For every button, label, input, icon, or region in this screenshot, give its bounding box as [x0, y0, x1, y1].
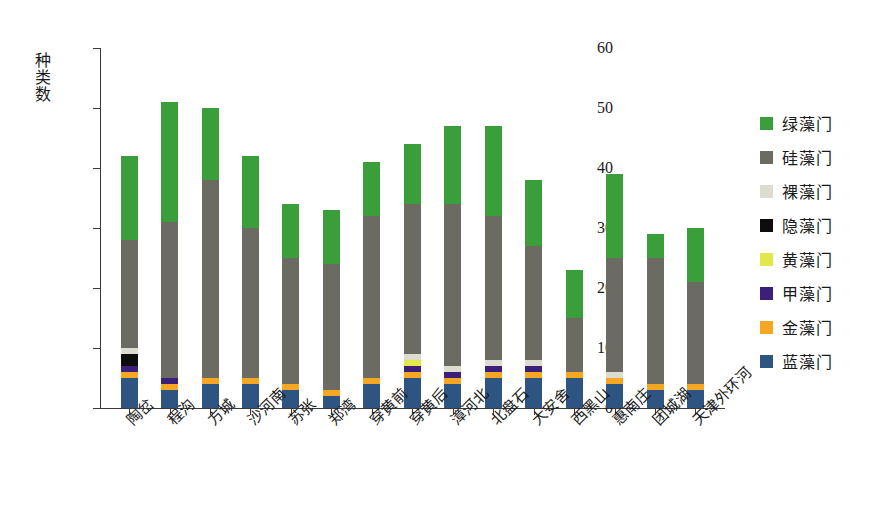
legend-label: 绿藻门 — [782, 111, 833, 135]
legend-swatch-icon — [760, 287, 773, 300]
bar-天津外环河[interactable] — [687, 228, 704, 408]
bar-segment-绿藻门 — [161, 102, 178, 222]
legend-label: 蓝藻门 — [782, 349, 833, 373]
legend-swatch-icon — [760, 253, 773, 266]
legend-label: 金藻门 — [782, 315, 833, 339]
bar-segment-硅藻门 — [282, 258, 299, 384]
bar-segment-绿藻门 — [525, 180, 542, 246]
bar-segment-硅藻门 — [202, 180, 219, 378]
bar-漳河北[interactable] — [444, 126, 461, 408]
y-tick-label: 50 — [573, 100, 613, 116]
bar-segment-硅藻门 — [566, 318, 583, 372]
bar-北盘石[interactable] — [485, 126, 502, 408]
bar-segment-硅藻门 — [161, 222, 178, 378]
bar-segment-绿藻门 — [282, 204, 299, 258]
bar-segment-硅藻门 — [363, 216, 380, 378]
stacked-bar-chart: 种类数 0102030405060 陶岔程沟方城沙河南苏张郑湾穿黄前穿黄后漳河北… — [0, 0, 877, 524]
legend-swatch-icon — [760, 355, 773, 368]
y-tick — [93, 228, 100, 229]
legend-item-裸藻门[interactable]: 裸藻门 — [760, 174, 833, 208]
bar-苏张[interactable] — [282, 204, 299, 408]
legend-label: 隐藻门 — [782, 213, 833, 237]
y-tick — [93, 348, 100, 349]
y-tick — [93, 48, 100, 49]
bar-segment-硅藻门 — [242, 228, 259, 378]
bar-segment-硅藻门 — [687, 282, 704, 384]
plot-area: 0102030405060 — [100, 48, 725, 408]
bar-segment-绿藻门 — [242, 156, 259, 228]
bar-方城[interactable] — [202, 108, 219, 408]
legend-item-隐藻门[interactable]: 隐藻门 — [760, 208, 833, 242]
bar-segment-绿藻门 — [485, 126, 502, 216]
y-tick — [93, 108, 100, 109]
bar-segment-绿藻门 — [566, 270, 583, 318]
legend-item-蓝藻门[interactable]: 蓝藻门 — [760, 344, 833, 378]
bar-segment-绿藻门 — [323, 210, 340, 264]
bar-segment-绿藻门 — [647, 234, 664, 258]
legend-item-绿藻门[interactable]: 绿藻门 — [760, 106, 833, 140]
bar-segment-蓝藻门 — [363, 384, 380, 408]
bar-segment-蓝藻门 — [202, 384, 219, 408]
bar-segment-绿藻门 — [404, 144, 421, 204]
legend-label: 硅藻门 — [782, 145, 833, 169]
bar-segment-硅藻门 — [121, 240, 138, 348]
bar-segment-隐藻门 — [121, 354, 138, 366]
bar-惠南庄[interactable] — [606, 174, 623, 408]
bar-穿黄后[interactable] — [404, 144, 421, 408]
legend-label: 甲藻门 — [782, 281, 833, 305]
legend-item-甲藻门[interactable]: 甲藻门 — [760, 276, 833, 310]
bar-segment-硅藻门 — [485, 216, 502, 360]
bar-segment-绿藻门 — [606, 174, 623, 258]
y-tick — [93, 408, 100, 409]
legend-swatch-icon — [760, 219, 773, 232]
bar-segment-绿藻门 — [363, 162, 380, 216]
legend-item-金藻门[interactable]: 金藻门 — [760, 310, 833, 344]
y-tick — [93, 168, 100, 169]
bar-大安舍[interactable] — [525, 180, 542, 408]
bar-程沟[interactable] — [161, 102, 178, 408]
y-tick-label: 60 — [573, 40, 613, 56]
bar-西黑山[interactable] — [566, 270, 583, 408]
bar-陶岔[interactable] — [121, 156, 138, 408]
bar-segment-硅藻门 — [323, 264, 340, 390]
legend-swatch-icon — [760, 151, 773, 164]
legend-item-黄藻门[interactable]: 黄藻门 — [760, 242, 833, 276]
bar-segment-硅藻门 — [525, 246, 542, 360]
bar-segment-硅藻门 — [647, 258, 664, 384]
bar-segment-绿藻门 — [202, 108, 219, 180]
bar-郑湾[interactable] — [323, 210, 340, 408]
bar-segment-绿藻门 — [444, 126, 461, 204]
bar-segment-硅藻门 — [606, 258, 623, 372]
y-axis-line — [100, 48, 101, 408]
y-axis-label: 种类数 — [28, 52, 54, 202]
bar-segment-硅藻门 — [404, 204, 421, 354]
legend-label: 黄藻门 — [782, 247, 833, 271]
bar-沙河南[interactable] — [242, 156, 259, 408]
bar-segment-绿藻门 — [121, 156, 138, 240]
y-tick — [93, 288, 100, 289]
legend-swatch-icon — [760, 321, 773, 334]
bar-segment-绿藻门 — [687, 228, 704, 282]
bar-segment-蓝藻门 — [121, 378, 138, 408]
bar-团城湖[interactable] — [647, 234, 664, 408]
bar-穿黄前[interactable] — [363, 162, 380, 408]
legend-item-硅藻门[interactable]: 硅藻门 — [760, 140, 833, 174]
bar-segment-硅藻门 — [444, 204, 461, 366]
legend-swatch-icon — [760, 185, 773, 198]
legend-label: 裸藻门 — [782, 179, 833, 203]
legend: 绿藻门硅藻门裸藻门隐藻门黄藻门甲藻门金藻门蓝藻门 — [760, 106, 833, 378]
legend-swatch-icon — [760, 117, 773, 130]
